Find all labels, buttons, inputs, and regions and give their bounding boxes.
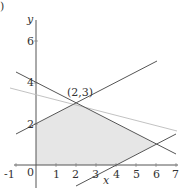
panel-label: ) [0,0,4,13]
x-tick-6: 6 [153,168,160,181]
y-tick-6: 6 [27,35,34,48]
x-tick-5: 5 [133,168,140,181]
y-tick-2: 2 [27,118,34,131]
x-tick-0: 0 [27,166,34,179]
y-axis-label: y [26,13,34,26]
x-tick-2: 2 [72,168,79,181]
x-tick-4: 4 [113,168,120,181]
x-axis-label: x [103,174,110,187]
x-tick-3: 3 [92,168,99,181]
y-tick-4: 4 [27,76,34,89]
feasible-region-plot: ) y x 6 4 2 -1 0 1 2 3 4 5 6 7 (2,3) [0,0,181,188]
x-tick-1: 1 [53,168,60,181]
x-tick-7: 7 [172,168,179,181]
x-tick--1: -1 [4,168,15,181]
vertex-label: (2,3) [67,86,93,99]
